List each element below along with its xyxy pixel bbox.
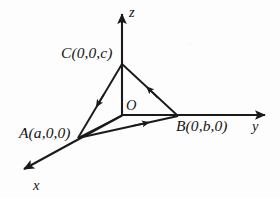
origin-label: O xyxy=(126,98,137,113)
y-axis-label: y xyxy=(252,119,259,134)
point-label-C: C(0,0,c) xyxy=(61,45,113,61)
coordinate-axes-figure: C(0,0,c) A(a,0,0) B(0,b,0) O z y x xyxy=(0,0,280,198)
edge-C-to-A-arrow xyxy=(98,94,104,104)
edge-A-to-B xyxy=(78,116,178,138)
point-label-B: B(0,b,0) xyxy=(176,118,228,134)
x-axis-label: x xyxy=(33,178,40,193)
z-axis-label: z xyxy=(129,5,135,20)
edge-B-to-C-arrow xyxy=(149,89,158,98)
point-label-A: A(a,0,0) xyxy=(19,125,71,141)
figure-drawing xyxy=(0,0,280,198)
